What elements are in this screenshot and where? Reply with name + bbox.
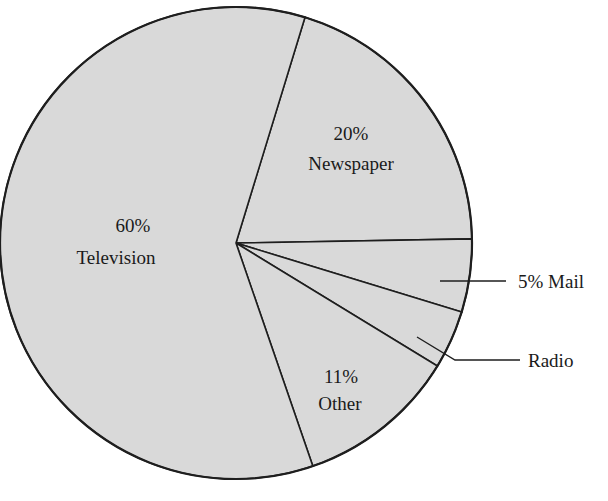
other-name-label: Other — [318, 393, 362, 414]
television-name-label: Television — [77, 247, 156, 268]
television-pct-label: 60% — [116, 215, 151, 236]
other-pct-label: 11% — [324, 366, 358, 387]
newspaper-name-label: Newspaper — [308, 153, 394, 174]
pie-slices — [0, 7, 472, 479]
mail-label: 5% Mail — [518, 271, 584, 292]
pie-chart: 60% Television 20% Newspaper 11% Other 5… — [0, 0, 608, 501]
newspaper-pct-label: 20% — [334, 123, 369, 144]
radio-label: Radio — [528, 350, 573, 371]
